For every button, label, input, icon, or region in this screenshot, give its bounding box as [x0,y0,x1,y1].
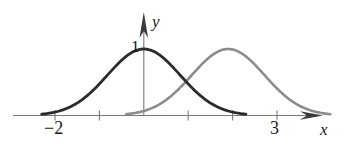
x-tick-label-3: 3 [270,119,279,137]
x-axis-label: x [320,121,328,138]
y-axis-label: y [152,13,160,30]
gaussian-curves-figure: y x 1 −2 3 [0,0,346,151]
x-tick-label-neg2: −2 [44,119,63,137]
gray-bell-curve [126,49,330,114]
y-tick-label-1: 1 [131,38,140,55]
